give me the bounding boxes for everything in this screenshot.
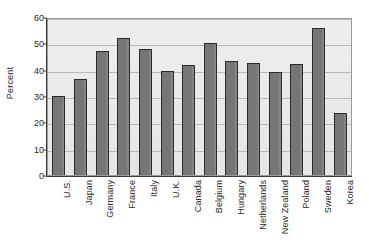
- x-label-slot: New Zealand: [265, 178, 287, 242]
- y-axis-title: Percent: [5, 51, 15, 115]
- bar-slot: [199, 19, 221, 175]
- x-axis-tick-label: Korea: [345, 180, 355, 205]
- y-axis-tick-label: 20: [22, 119, 44, 128]
- x-label-slot: Korea: [330, 178, 352, 242]
- bar: [269, 72, 282, 175]
- y-axis-tick-labels: 0102030405060: [20, 0, 44, 243]
- y-axis-tick-label: 30: [22, 93, 44, 102]
- bar-slot: [329, 19, 351, 175]
- x-label-slot: Netherlands: [243, 178, 265, 242]
- x-label-slot: Hungary: [221, 178, 243, 242]
- bar-slot: [308, 19, 330, 175]
- bar-slot: [91, 19, 113, 175]
- y-axis-tick-label: 40: [22, 66, 44, 75]
- plot-area: [47, 18, 352, 176]
- bar: [74, 79, 87, 175]
- y-axis-tick-label: 0: [22, 172, 44, 181]
- bar-slot: [286, 19, 308, 175]
- x-label-slot: Italy: [134, 178, 156, 242]
- bar: [139, 49, 152, 175]
- bar: [204, 43, 217, 175]
- x-label-slot: Japan: [69, 178, 91, 242]
- x-label-slot: Poland: [287, 178, 309, 242]
- y-axis-tick-label: 60: [22, 14, 44, 23]
- bar: [312, 28, 325, 175]
- bar-slot: [243, 19, 265, 175]
- bar-slot: [135, 19, 157, 175]
- x-axis-tick-labels: U.S.JapanGermanyFranceItalyU.K.CanadaBel…: [47, 178, 352, 242]
- bar: [96, 51, 109, 175]
- x-label-slot: Belgium: [199, 178, 221, 242]
- x-label-slot: Sweden: [308, 178, 330, 242]
- x-label-slot: Germany: [91, 178, 113, 242]
- bar-slot: [221, 19, 243, 175]
- bar: [334, 113, 347, 175]
- x-label-slot: U.K.: [156, 178, 178, 242]
- y-axis-tick-label: 50: [22, 40, 44, 49]
- x-label-slot: Canada: [178, 178, 200, 242]
- bar-chart: Percent 0102030405060 U.S.JapanGermanyFr…: [0, 0, 369, 243]
- bar: [247, 63, 260, 175]
- x-label-slot: U.S.: [47, 178, 69, 242]
- bar: [225, 61, 238, 175]
- bar: [117, 38, 130, 175]
- y-axis-tick-label: 10: [22, 145, 44, 154]
- bar-series: [48, 19, 351, 175]
- bar-slot: [178, 19, 200, 175]
- bar-slot: [70, 19, 92, 175]
- bar: [161, 71, 174, 175]
- page-edge: [360, 0, 369, 243]
- bar-slot: [113, 19, 135, 175]
- bar: [290, 64, 303, 175]
- bar: [52, 96, 65, 175]
- x-axis-line: [47, 176, 352, 177]
- bar: [182, 65, 195, 175]
- bar-slot: [48, 19, 70, 175]
- x-label-slot: France: [112, 178, 134, 242]
- bar-slot: [264, 19, 286, 175]
- bar-slot: [156, 19, 178, 175]
